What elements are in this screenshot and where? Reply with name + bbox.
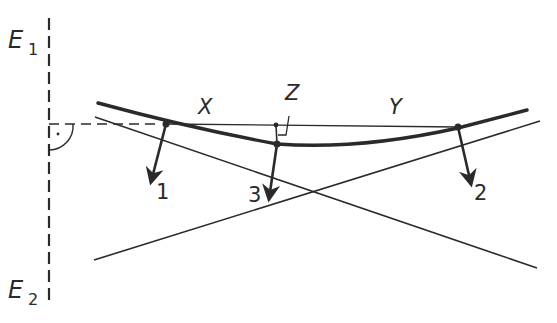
point-z	[274, 123, 279, 128]
label-e2-sub: 2	[28, 290, 38, 309]
chord-line	[166, 124, 458, 127]
label-x: X	[197, 95, 213, 119]
label-point-1: 1	[156, 180, 169, 204]
right-angle-dot	[57, 133, 60, 136]
label-point-3: 3	[248, 183, 261, 207]
label-e1-sub: 1	[28, 40, 38, 59]
right-angle-arc	[49, 124, 73, 150]
label-z: Z	[284, 81, 300, 105]
label-e1: E	[8, 26, 24, 54]
force-arrow-3	[269, 144, 277, 199]
force-arrow-1	[151, 124, 166, 182]
force-arrow-2	[458, 127, 471, 184]
label-point-2: 2	[474, 181, 487, 205]
label-e2: E	[8, 276, 24, 304]
diagram-canvas: E 1 E 2 X Y Z 1 2 3	[0, 0, 557, 323]
label-y: Y	[389, 95, 404, 119]
